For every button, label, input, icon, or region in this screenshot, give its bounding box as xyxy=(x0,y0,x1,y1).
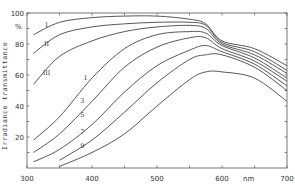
curve-label-1: 1 xyxy=(83,74,87,82)
y-tick-label: 100 xyxy=(11,10,24,18)
y-tick-label: 20 xyxy=(15,134,24,142)
y-axis-title: Irradiance transmittance xyxy=(1,42,9,150)
x-tick-label: 700 xyxy=(280,175,293,183)
curves xyxy=(34,16,288,167)
y-tick-label: 60 xyxy=(15,72,24,80)
curve-1 xyxy=(34,31,288,140)
axis-ticks: 30040050060070020406080100 xyxy=(11,10,294,184)
curve-7 xyxy=(60,54,288,161)
curve-label-III: III xyxy=(43,69,51,77)
curve-label-7: 7 xyxy=(80,128,84,136)
x-tick-label: 300 xyxy=(20,175,33,183)
y-tick-label: 40 xyxy=(15,103,24,111)
x-tick-label: 400 xyxy=(85,175,98,183)
curve-label-3: 3 xyxy=(80,97,84,105)
curve-9 xyxy=(60,71,288,166)
x-tick-label: 600 xyxy=(215,175,228,183)
y-unit-label: % xyxy=(15,23,22,31)
curve-3 xyxy=(34,37,288,153)
x-unit-label: nm xyxy=(243,175,254,183)
curve-label-5: 5 xyxy=(80,111,84,119)
curve-labels: IIIIII13579 xyxy=(43,21,88,150)
curve-label-I: I xyxy=(45,21,48,29)
curve-label-II: II xyxy=(44,40,50,48)
x-tick-label: 500 xyxy=(150,175,163,183)
y-tick-label: 80 xyxy=(15,41,24,49)
transmittance-chart: 30040050060070020406080100 IIIIII13579 n… xyxy=(0,0,295,185)
curve-label-9: 9 xyxy=(80,142,84,150)
